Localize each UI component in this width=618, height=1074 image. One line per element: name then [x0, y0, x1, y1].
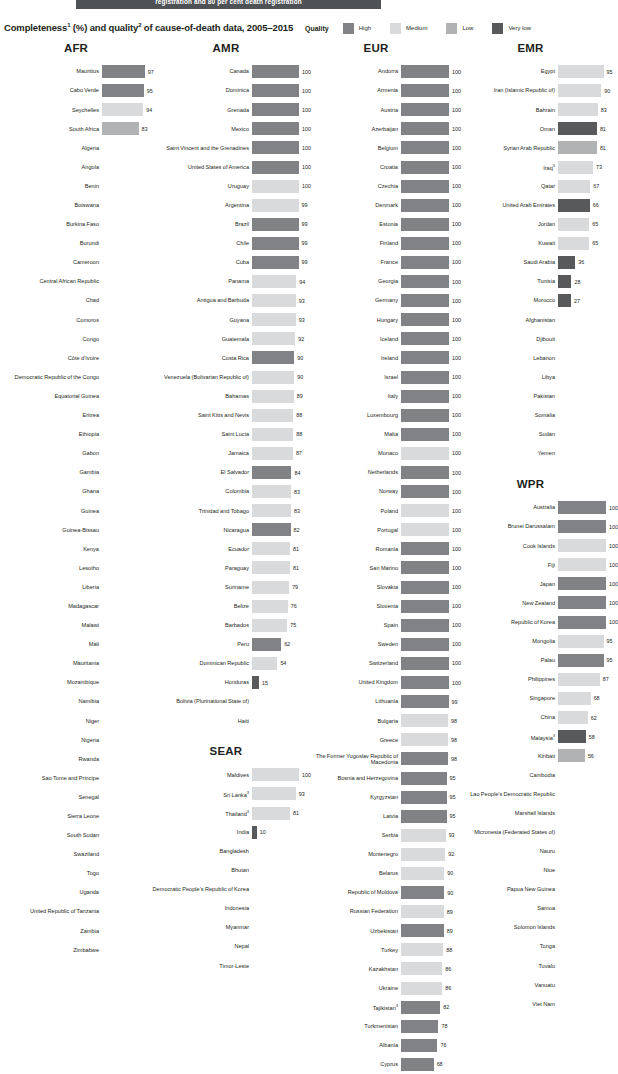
- table-row[interactable]: Comoros: [0, 310, 152, 329]
- table-row[interactable]: United Kingdom100: [300, 673, 452, 692]
- table-row[interactable]: Canada100: [150, 62, 302, 81]
- table-row[interactable]: Bahamas89: [150, 387, 302, 406]
- table-row[interactable]: India10: [150, 823, 302, 842]
- completeness-bar[interactable]: [252, 65, 299, 78]
- table-row[interactable]: Marshall Islands: [452, 803, 609, 822]
- table-row[interactable]: Nicaragua82: [150, 520, 302, 539]
- table-row[interactable]: Latvia95: [300, 807, 452, 826]
- table-row[interactable]: Tonga: [452, 937, 609, 956]
- table-row[interactable]: Botswana: [0, 196, 152, 215]
- table-row[interactable]: Yemen: [452, 444, 609, 463]
- completeness-bar[interactable]: [401, 141, 449, 154]
- table-row[interactable]: Gabon: [0, 444, 152, 463]
- table-row[interactable]: Argentina99: [150, 196, 302, 215]
- table-row[interactable]: Philippines87: [452, 670, 609, 689]
- table-row[interactable]: Benin: [0, 177, 152, 196]
- table-row[interactable]: Germany100: [300, 291, 452, 310]
- completeness-bar[interactable]: [401, 351, 449, 364]
- table-row[interactable]: Iceland100: [300, 329, 452, 348]
- table-row[interactable]: Dominica100: [150, 81, 302, 100]
- completeness-bar[interactable]: [558, 141, 597, 154]
- table-row[interactable]: Ghana: [0, 482, 152, 501]
- completeness-bar[interactable]: [401, 1020, 438, 1033]
- completeness-bar[interactable]: [252, 600, 288, 613]
- table-row[interactable]: United States of America100: [150, 157, 302, 176]
- table-row[interactable]: Panama94: [150, 272, 302, 291]
- completeness-bar[interactable]: [558, 616, 606, 629]
- table-row[interactable]: Burkina Faso: [0, 215, 152, 234]
- table-row[interactable]: Myanmar: [150, 918, 302, 937]
- table-row[interactable]: Gambia: [0, 463, 152, 482]
- table-row[interactable]: Liberia: [0, 578, 152, 597]
- completeness-bar[interactable]: [401, 791, 447, 804]
- table-row[interactable]: Senegal: [0, 788, 152, 807]
- table-row[interactable]: Lithuania99: [300, 692, 452, 711]
- table-row[interactable]: Samoa: [452, 899, 609, 918]
- completeness-bar[interactable]: [252, 581, 289, 594]
- table-row[interactable]: Cyprus68: [300, 1055, 452, 1074]
- completeness-bar[interactable]: [252, 84, 299, 97]
- table-row[interactable]: Kyrgyzstan95: [300, 788, 452, 807]
- table-row[interactable]: Tajikistan382: [300, 998, 452, 1017]
- table-row[interactable]: Madagascar: [0, 597, 152, 616]
- table-row[interactable]: Greece98: [300, 730, 452, 749]
- table-row[interactable]: Algeria: [0, 138, 152, 157]
- completeness-bar[interactable]: [558, 558, 606, 571]
- table-row[interactable]: Pakistan: [452, 387, 609, 406]
- table-row[interactable]: Estonia100: [300, 215, 452, 234]
- table-row[interactable]: Democratic People’s Republic of Korea: [150, 880, 302, 899]
- table-row[interactable]: Kazakhstan86: [300, 959, 452, 978]
- table-row[interactable]: South Sudan: [0, 826, 152, 845]
- completeness-bar[interactable]: [252, 313, 296, 326]
- table-row[interactable]: United Arab Emirates66: [452, 196, 609, 215]
- table-row[interactable]: Ecuador81: [150, 539, 302, 558]
- table-row[interactable]: Sierra Leone: [0, 807, 152, 826]
- completeness-bar[interactable]: [252, 504, 291, 517]
- completeness-bar[interactable]: [558, 65, 604, 78]
- completeness-bar[interactable]: [401, 657, 449, 670]
- completeness-bar[interactable]: [401, 1001, 440, 1014]
- table-row[interactable]: New Zealand100: [452, 593, 609, 612]
- completeness-bar[interactable]: [401, 409, 449, 422]
- table-row[interactable]: Slovenia100: [300, 597, 452, 616]
- table-row[interactable]: Slovakia100: [300, 578, 452, 597]
- completeness-bar[interactable]: [401, 371, 449, 384]
- table-row[interactable]: Ireland100: [300, 348, 452, 367]
- completeness-bar[interactable]: [558, 180, 590, 193]
- table-row[interactable]: Kiribati56: [452, 746, 609, 765]
- table-row[interactable]: Norway100: [300, 482, 452, 501]
- completeness-bar[interactable]: [401, 600, 449, 613]
- table-row[interactable]: Guatemala92: [150, 329, 302, 348]
- completeness-bar[interactable]: [252, 466, 291, 479]
- table-row[interactable]: Austria100: [300, 100, 452, 119]
- table-row[interactable]: Sri Lanka393: [150, 784, 302, 803]
- table-row[interactable]: Fiji100: [452, 555, 609, 574]
- table-row[interactable]: Hungary100: [300, 310, 452, 329]
- table-row[interactable]: Czechia100: [300, 177, 452, 196]
- table-row[interactable]: Montenegro92: [300, 845, 452, 864]
- completeness-bar[interactable]: [558, 501, 606, 514]
- table-row[interactable]: Maldives100: [150, 765, 302, 784]
- table-row[interactable]: Grenada100: [150, 100, 302, 119]
- table-row[interactable]: Tuvalu: [452, 956, 609, 975]
- completeness-bar[interactable]: [401, 122, 449, 135]
- table-row[interactable]: Kenya: [0, 539, 152, 558]
- completeness-bar[interactable]: [558, 596, 606, 609]
- completeness-bar[interactable]: [401, 294, 449, 307]
- table-row[interactable]: Haiti: [150, 711, 302, 730]
- table-row[interactable]: Australia100: [452, 498, 609, 517]
- completeness-bar[interactable]: [102, 65, 145, 78]
- table-row[interactable]: Guyana93: [150, 310, 302, 329]
- completeness-bar[interactable]: [401, 542, 449, 555]
- table-row[interactable]: Cook Islands100: [452, 536, 609, 555]
- table-row[interactable]: Lesotho: [0, 558, 152, 577]
- table-row[interactable]: Serbia93: [300, 826, 452, 845]
- table-row[interactable]: Equatorial Guinea: [0, 387, 152, 406]
- table-row[interactable]: Micronesia (Federated States of): [452, 823, 609, 842]
- table-row[interactable]: Japan100: [452, 574, 609, 593]
- table-row[interactable]: Uganda: [0, 883, 152, 902]
- completeness-bar[interactable]: [401, 332, 449, 345]
- table-row[interactable]: Sao Tome and Principe: [0, 768, 152, 787]
- completeness-bar[interactable]: [558, 711, 588, 724]
- completeness-bar[interactable]: [558, 539, 606, 552]
